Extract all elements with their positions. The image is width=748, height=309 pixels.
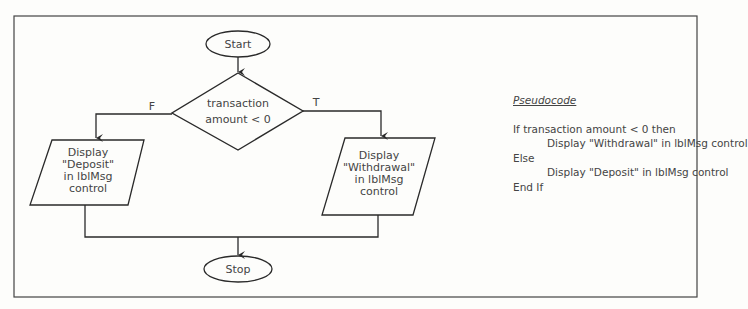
start-label: Start xyxy=(225,38,253,51)
pseudocode-line: Display "Deposit" in lblMsg control xyxy=(513,165,748,180)
false-branch-arrow xyxy=(96,114,172,138)
pseudocode-panel: Pseudocode If transaction amount < 0 the… xyxy=(513,93,748,194)
true-label: T xyxy=(312,96,320,109)
withdrawal-line4: control xyxy=(360,185,398,198)
pseudocode-line: End If xyxy=(513,180,748,195)
start-terminal: Start xyxy=(206,31,270,57)
deposit-output-box: Display "Deposit" in lblMsg control xyxy=(30,140,144,205)
pseudocode-line: Else xyxy=(513,151,748,166)
pseudocode-line: Display "Withdrawal" in lblMsg control xyxy=(513,136,748,151)
merge-connector xyxy=(85,205,378,237)
pseudocode-title: Pseudocode xyxy=(513,93,748,108)
false-label: F xyxy=(149,100,155,113)
decision-line1: transaction xyxy=(207,97,269,110)
true-branch-arrow xyxy=(303,111,381,136)
stop-terminal: Stop xyxy=(204,256,272,282)
decision-line2: amount < 0 xyxy=(205,113,271,126)
decision-diamond: transaction amount < 0 xyxy=(172,73,303,150)
withdrawal-output-box: Display "Withdrawal" in lblMsg control xyxy=(322,138,435,215)
deposit-line4: control xyxy=(69,182,107,195)
stop-label: Stop xyxy=(225,263,250,276)
pseudocode-line: If transaction amount < 0 then xyxy=(513,122,748,137)
